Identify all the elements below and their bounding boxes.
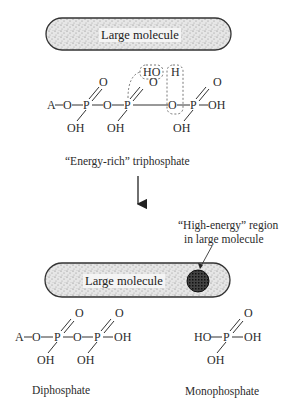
atom-OH: OH — [208, 99, 225, 111]
atom-OH: OH — [173, 122, 190, 134]
diphosphate-caption: Diphosphate — [32, 384, 90, 396]
bottom-large-molecule-label: Large molecule — [83, 274, 165, 288]
high-energy-caption-line1: “High-energy” region — [178, 219, 278, 231]
hydrogen-label: H — [171, 66, 180, 78]
atom-P: P — [190, 99, 197, 111]
hydroxyl-group-label: HO — [143, 66, 160, 78]
atom-O-double: O — [244, 307, 253, 319]
atom-P: P — [54, 331, 61, 343]
atom-O-double: O — [115, 307, 124, 319]
triphosphate-caption: “Energy-rich” triphosphate — [65, 155, 190, 167]
atom-P: P — [124, 99, 131, 111]
atom-O: O — [103, 99, 112, 111]
atom-HO: HO — [194, 331, 211, 343]
triphosphate-bonds — [55, 87, 209, 121]
atom-OH: OH — [114, 331, 131, 343]
atom-O: O — [32, 331, 41, 343]
monophosphate-caption: Monophosphate — [185, 385, 259, 397]
high-energy-caption-line2: in large molecule — [184, 233, 264, 245]
atom-O-double: O — [213, 76, 222, 88]
atom-O: O — [168, 99, 177, 111]
atom-P: P — [83, 99, 90, 111]
atom-OH: OH — [244, 331, 261, 343]
atom-A: A — [15, 331, 24, 343]
atom-O: O — [63, 99, 72, 111]
atom-OH: OH — [77, 354, 94, 366]
high-energy-region-icon — [187, 270, 209, 292]
diagram-graphics — [0, 0, 304, 407]
atom-P: P — [223, 331, 230, 343]
atom-O-double: O — [75, 307, 84, 319]
atom-OH: OH — [207, 354, 224, 366]
top-large-molecule-label: Large molecule — [99, 28, 181, 42]
atom-P: P — [94, 331, 101, 343]
atom-OH: OH — [37, 354, 54, 366]
atom-OH: OH — [67, 122, 84, 134]
atom-O-double: O — [99, 76, 108, 88]
atom-O: O — [73, 331, 82, 343]
atom-A: A — [47, 99, 56, 111]
atom-OH: OH — [107, 122, 124, 134]
